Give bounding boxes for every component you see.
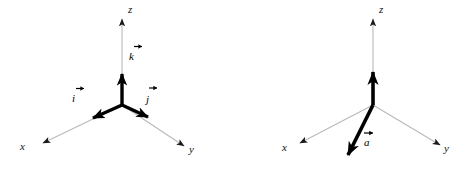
vector-label-k: k	[129, 44, 142, 62]
axis-label-z: z	[127, 3, 133, 15]
left-diagram-canvas: x y z k i j	[0, 0, 238, 175]
left-vectors-group	[93, 74, 148, 118]
vector-j	[122, 105, 148, 117]
vector-label-i: i	[72, 86, 84, 104]
vector-label-j-text: j	[144, 93, 149, 105]
vector-label-i-text: i	[72, 92, 75, 104]
axis-label-z: z	[378, 3, 384, 15]
axis-label-y: y	[443, 142, 449, 154]
vector-label-k-text: k	[129, 50, 135, 62]
vector-label-k-arrow-head	[138, 44, 142, 48]
axis-label-y: y	[188, 143, 194, 155]
figure-root: x y z k i j	[0, 0, 476, 175]
vector-label-a-arrow-head	[369, 131, 373, 135]
right-axes-group	[300, 19, 440, 145]
axis-label-x: x	[281, 141, 287, 153]
vector-label-a: a	[364, 131, 373, 148]
vector-label-i-arrow-head	[80, 86, 84, 90]
vector-label-j: j	[144, 86, 157, 105]
unit-vector-diagram: x y z k i j	[0, 0, 238, 175]
general-vector-diagram: x y z a	[238, 0, 476, 175]
axis-label-x: x	[19, 140, 25, 152]
axis-line-y	[373, 105, 440, 145]
vector-label-a-text: a	[364, 136, 370, 148]
vector-i	[93, 105, 122, 118]
vector-label-j-arrow-head	[153, 86, 157, 90]
left-axes-group	[43, 19, 184, 146]
right-diagram-canvas: x y z a	[238, 0, 476, 175]
